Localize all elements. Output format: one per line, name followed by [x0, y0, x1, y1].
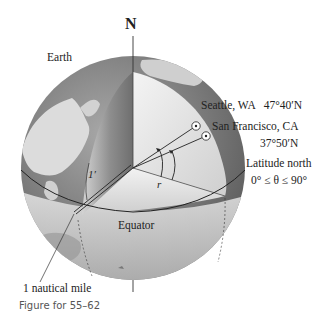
latitude-label-line1: Latitude north: [246, 157, 311, 169]
sf-label-line1: San Francisco, CA: [212, 120, 299, 132]
earth-label: Earth: [47, 51, 72, 63]
sf-marker: [202, 132, 210, 140]
latitude-label-line2: 0° ≤ θ ≤ 90°: [251, 174, 307, 186]
figure-caption: Figure for 55–62: [19, 300, 100, 311]
sf-label-line2: 37°50′N: [260, 137, 298, 149]
north-label: N: [125, 15, 137, 33]
seattle-label: Seattle, WA 47°40′N: [201, 99, 302, 111]
equator-label: Equator: [118, 219, 154, 231]
arc-minute-label: 1′: [88, 168, 96, 180]
seattle-marker: [192, 122, 200, 130]
globe: [21, 56, 245, 290]
nautical-mile-label: 1 nautical mile: [23, 282, 91, 294]
radius-label: r: [157, 178, 161, 190]
